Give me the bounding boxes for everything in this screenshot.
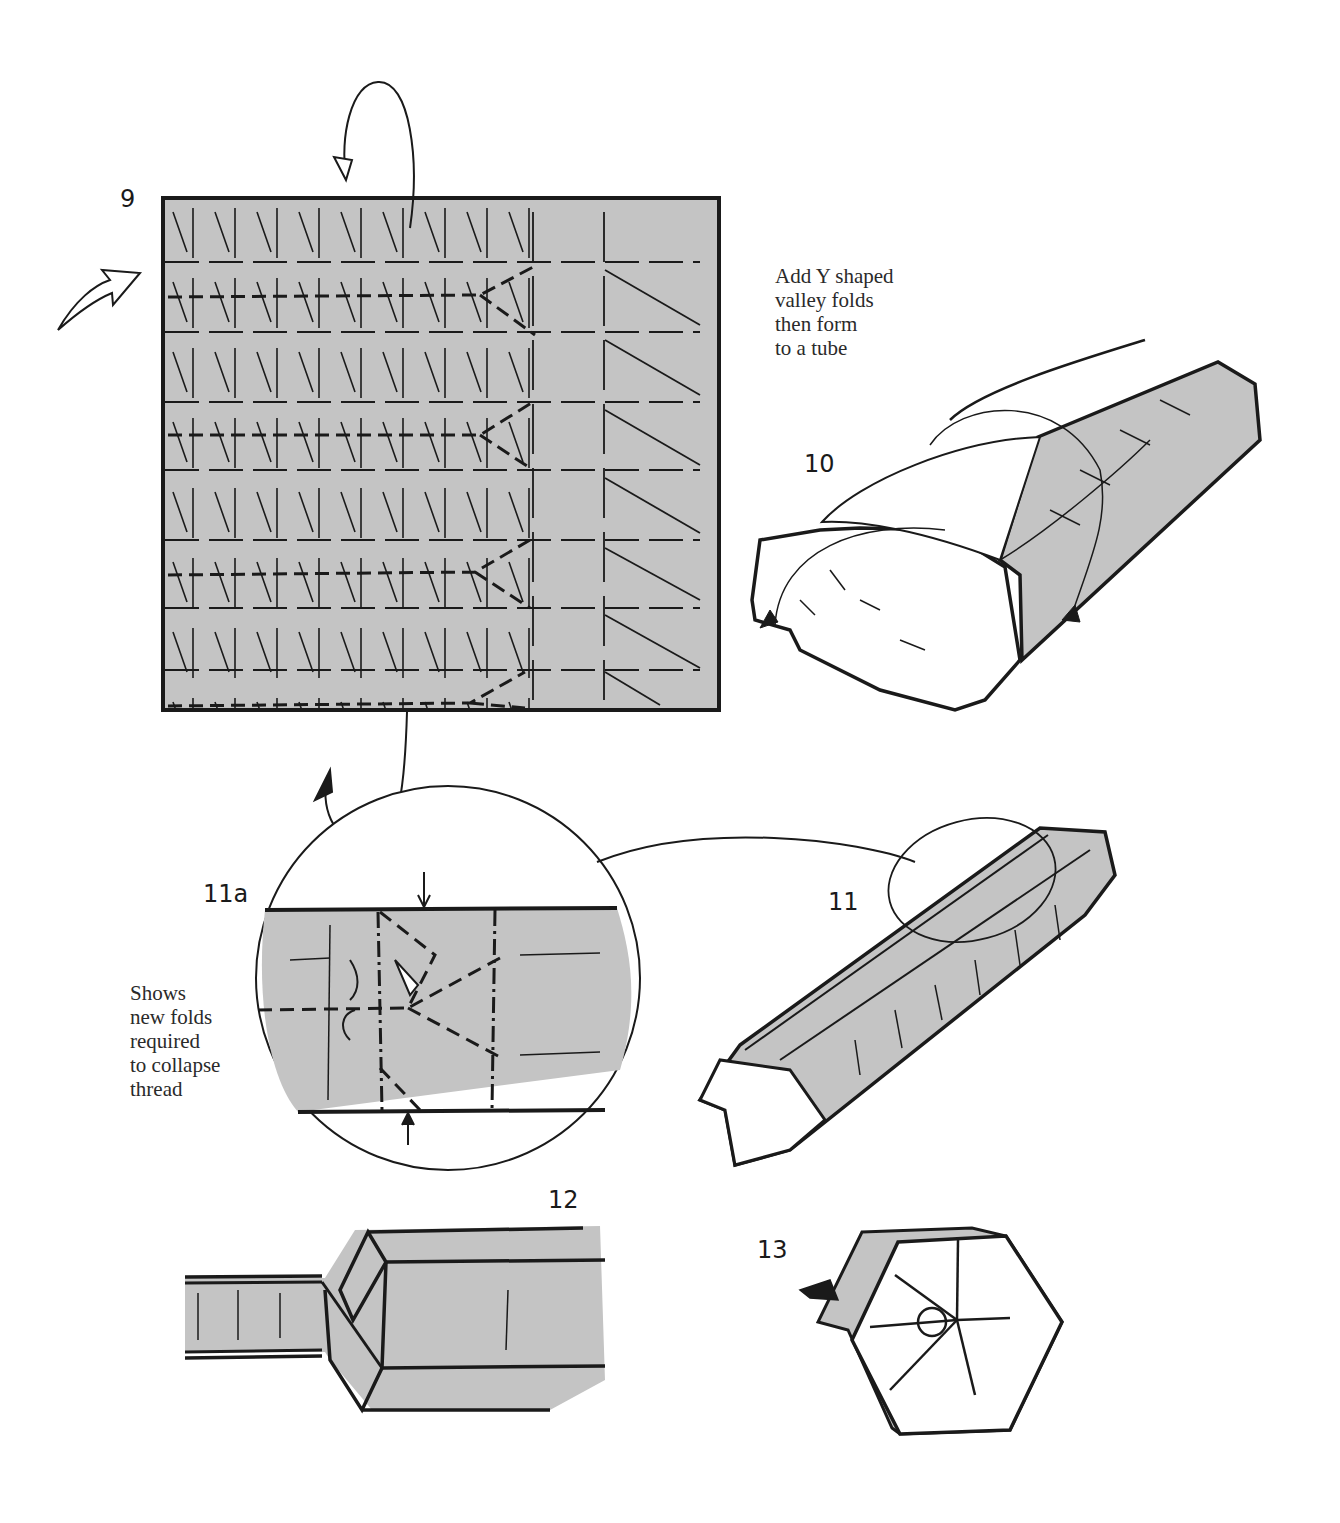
rotate-arrow-icon — [58, 270, 140, 330]
step11-tube — [700, 800, 1115, 1165]
origami-instructions-page: 9 10 11a 11 12 13 Add Y shaped valley fo… — [0, 0, 1340, 1523]
step12-collapsed-thread — [185, 1226, 605, 1410]
step10-tube — [752, 340, 1260, 710]
diagram-drawings — [0, 0, 1340, 1523]
step13-hexagon-end — [800, 1228, 1062, 1434]
step9-crease-pattern — [163, 198, 719, 710]
